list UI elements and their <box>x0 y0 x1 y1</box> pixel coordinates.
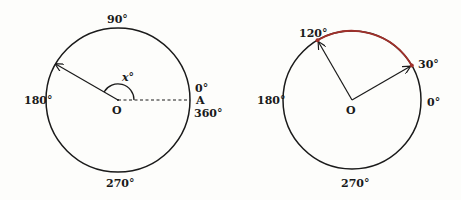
label-360: 360° <box>194 107 222 120</box>
label-270: 270° <box>341 177 369 190</box>
center-point <box>117 99 119 101</box>
label-180: 180° <box>24 94 52 107</box>
vector-30 <box>352 67 410 100</box>
point-30 <box>410 64 414 68</box>
center-label-o: O <box>346 104 356 117</box>
center-label-o: O <box>112 104 122 117</box>
label-90: 90° <box>107 13 128 26</box>
label-30: 30° <box>418 58 439 71</box>
angle-diagrams: O x° 90° 180° 270° 0° A 360° O 120° 30° … <box>0 0 461 200</box>
label-270: 270° <box>106 177 134 190</box>
right-circle-diagram: O 120° 30° 180° 0° 270° <box>257 27 440 190</box>
vector-120 <box>319 42 353 100</box>
left-circle-diagram: O x° 90° 180° 270° 0° A 360° <box>24 13 222 190</box>
label-0: 0° <box>427 96 440 109</box>
highlighted-arc <box>318 31 412 66</box>
rotation-vector <box>56 64 118 100</box>
angle-label-x: x° <box>121 71 134 84</box>
label-180: 180° <box>257 94 285 107</box>
point-label-a: A <box>195 94 205 107</box>
label-120: 120° <box>299 27 327 40</box>
angle-arc <box>104 84 134 100</box>
